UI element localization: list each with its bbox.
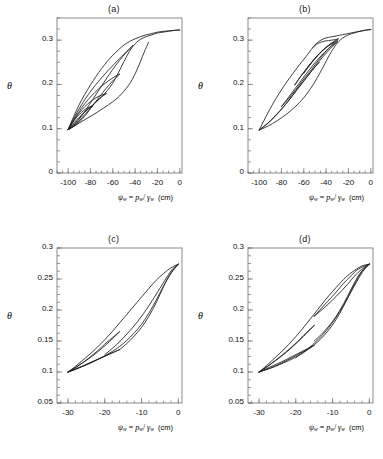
curve-d-scanning-mid-1 bbox=[314, 264, 369, 341]
minor-ticks-d bbox=[248, 248, 369, 403]
curve-d-main-drying-boundary bbox=[259, 264, 369, 372]
ytick-label-d-1: 0.1 bbox=[212, 366, 244, 375]
psi-subscript: w bbox=[314, 426, 318, 432]
ytick-label-d-0: 0.05 bbox=[212, 397, 244, 406]
ytick-label-d-5: 0.3 bbox=[212, 242, 244, 251]
slash-symbol: / bbox=[334, 423, 336, 432]
gamma-subscript: w bbox=[341, 426, 345, 432]
plot-canvas-d bbox=[0, 0, 383, 459]
major-ticks-d bbox=[248, 248, 369, 403]
plot-frame-d bbox=[248, 248, 373, 403]
unit-label: (cm) bbox=[349, 423, 364, 432]
ytick-label-d-4: 0.25 bbox=[212, 273, 244, 282]
xtick-label-d-0: -30 bbox=[243, 408, 275, 417]
panel-d: (d)0.050.10.150.20.250.3-30-20-100θψw = … bbox=[0, 0, 383, 459]
ytick-label-d-3: 0.2 bbox=[212, 304, 244, 313]
xtick-label-d-2: -10 bbox=[317, 408, 349, 417]
figure-root: (a)00.10.20.3-100-80-60-40-200θψw = pw/ … bbox=[0, 0, 383, 459]
ytick-label-d-2: 0.15 bbox=[212, 335, 244, 344]
equals-symbol: = bbox=[320, 423, 325, 432]
curve-d-main-wetting-boundary bbox=[259, 264, 369, 372]
y-axis-label-d: θ bbox=[198, 310, 203, 321]
xtick-label-d-3: 0 bbox=[353, 408, 383, 417]
curve-d-scanning-loop-2-out bbox=[259, 345, 314, 372]
curve-group-d bbox=[259, 264, 369, 372]
x-axis-label-d: ψw = pw/ γw (cm) bbox=[254, 423, 383, 432]
curve-d-scanning-mid-2 bbox=[296, 264, 370, 358]
xtick-label-d-1: -20 bbox=[280, 408, 312, 417]
